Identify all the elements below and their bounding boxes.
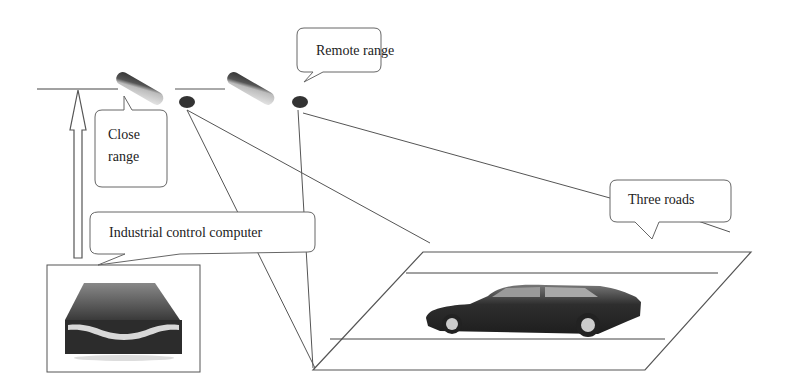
close-range-label-line1: Close [108,125,140,144]
three-roads-label: Three roads [628,190,694,209]
remote-range-label: Remote range [316,41,394,60]
arrow-up-icon [70,90,86,258]
callout-three-roads [610,180,731,239]
close-range-label-line2: range [108,147,139,166]
car-icon [426,285,641,337]
industrial-computer-label: Industrial control computer [109,223,262,242]
server-icon [47,265,200,372]
diagram-canvas: Remote range Close range Three roads Ind… [0,0,787,390]
camera-icon [225,70,308,108]
